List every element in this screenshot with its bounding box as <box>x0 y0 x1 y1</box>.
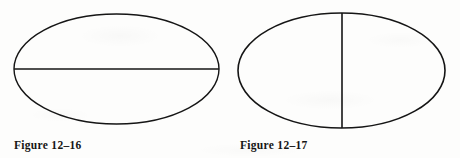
figure-12-17-caption: Figure 12–17 <box>240 140 308 152</box>
figure-12-16-diagram <box>0 0 230 138</box>
figure-12-17-block: Figure 12–17 <box>230 0 460 158</box>
figure-12-16-block: Figure 12–16 <box>0 0 230 158</box>
figure-12-17-diagram <box>230 0 460 138</box>
scanned-page: Figure 12–16 Figure 12–17 <box>0 0 460 158</box>
figure-12-16-caption: Figure 12–16 <box>14 140 82 152</box>
